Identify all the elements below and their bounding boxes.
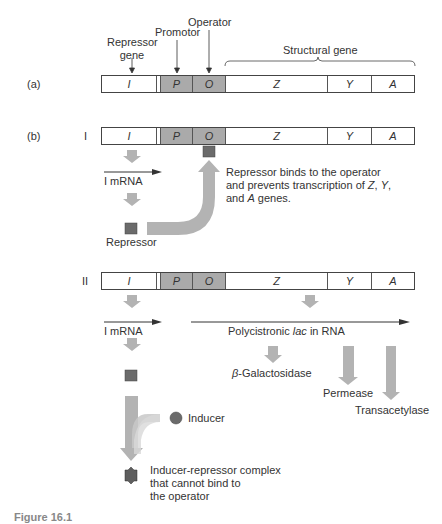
repressor-square-icon [125, 223, 137, 234]
transacetylase-label: Transacetylase [355, 404, 429, 417]
complex-line-3: the operator [150, 490, 281, 503]
beta-galactosidase-label: β-Galactosidase [232, 367, 312, 380]
down-arrow-icon [123, 193, 141, 206]
down-arrow-icon [123, 338, 141, 351]
note-line-3: and A genes. [226, 192, 391, 205]
beta-rest: -Galactosidase [238, 367, 311, 379]
poly-suffix: in RNA [307, 325, 345, 337]
note-line-2: and prevents transcription of Z, Y, [226, 179, 391, 192]
poly-prefix: Polycistronic [228, 325, 293, 337]
complex-line-2: that cannot bind to [150, 477, 281, 490]
poly-lac: lac [293, 325, 307, 337]
repressor-square-icon [125, 370, 137, 381]
complex-label: Inducer-repressor complex that cannot bi… [150, 464, 281, 503]
complex-line-1: Inducer-repressor complex [150, 464, 281, 477]
permease-arrow-icon [338, 346, 358, 385]
panel-II-flow-arrows [123, 295, 400, 400]
beta-gal-arrow-icon [264, 346, 282, 363]
structural-gene-brace [225, 57, 415, 66]
complex-icon [125, 467, 137, 484]
inducer-circle-icon [170, 412, 182, 424]
figure-caption-partial: Figure 16.1 [14, 511, 72, 524]
repressor-label: Repressor [106, 236, 157, 249]
inducer-label: Inducer [188, 412, 225, 425]
down-arrow-icon [123, 295, 141, 308]
polycistronic-label: Polycistronic lac in RNA [228, 325, 345, 338]
permease-label: Permease [323, 387, 373, 400]
pointer-arrows [130, 30, 212, 73]
mrna-label-I: I mRNA [104, 175, 143, 188]
mrna-label-II: I mRNA [104, 325, 143, 338]
binding-note: Repressor binds to the operator and prev… [226, 166, 391, 205]
down-arrow-icon [301, 295, 319, 308]
down-arrow-icon [123, 150, 141, 163]
transacetylase-arrow-icon [382, 346, 400, 400]
note-line-1: Repressor binds to the operator [226, 166, 391, 179]
bound-repressor-icon [203, 146, 215, 157]
